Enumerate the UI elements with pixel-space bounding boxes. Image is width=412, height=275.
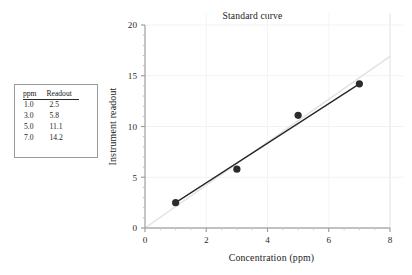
cell-readout: 2.5 bbox=[44, 99, 79, 110]
x-axis-tick-label: 2 bbox=[204, 235, 209, 245]
y-axis-tick-label: 5 bbox=[132, 173, 137, 183]
data-point-marker bbox=[356, 80, 363, 87]
chart-plot-region: Standard curve 0510152002468 Concentrati… bbox=[100, 6, 405, 271]
table-header-readout: Readout bbox=[44, 90, 79, 99]
axis-titles: Concentration (ppm)Instrument readout bbox=[107, 87, 314, 264]
gridlines bbox=[145, 13, 404, 228]
x-axis-tick-label: 6 bbox=[326, 235, 331, 245]
y-axis-tick-label: 20 bbox=[128, 20, 138, 30]
standards-data-table: ppm Readout 1.0 2.5 3.0 5.8 5.0 11.1 7.0… bbox=[23, 90, 79, 143]
chart-screenshot: { "table": { "headers": ["ppm", "Readout… bbox=[0, 0, 412, 275]
cell-ppm: 7.0 bbox=[23, 132, 44, 143]
table-row: 5.0 11.1 bbox=[23, 121, 79, 132]
table-body: 1.0 2.5 3.0 5.8 5.0 11.1 7.0 14.2 bbox=[23, 99, 79, 143]
y-axis-tick-label: 10 bbox=[128, 122, 138, 132]
cell-ppm: 3.0 bbox=[23, 110, 44, 121]
x-axis-tick-label: 0 bbox=[143, 235, 148, 245]
standards-data-table-box: ppm Readout 1.0 2.5 3.0 5.8 5.0 11.1 7.0… bbox=[14, 84, 98, 158]
table-header-row: ppm Readout bbox=[23, 90, 79, 99]
table-row: 3.0 5.8 bbox=[23, 110, 79, 121]
y-axis-tick-label: 15 bbox=[128, 71, 138, 81]
cell-readout: 14.2 bbox=[44, 132, 79, 143]
data-point-marker bbox=[233, 166, 240, 173]
x-axis-tick-label: 4 bbox=[265, 235, 270, 245]
table-header-row-group: ppm Readout bbox=[23, 90, 79, 99]
x-axis-title: Concentration (ppm) bbox=[229, 252, 315, 264]
data-point-marker bbox=[295, 112, 302, 119]
data-point-marker bbox=[172, 199, 179, 206]
cell-readout: 11.1 bbox=[44, 121, 79, 132]
table-row: 1.0 2.5 bbox=[23, 99, 79, 110]
y-axis-tick-label: 0 bbox=[132, 223, 137, 233]
x-axis-tick-label: 8 bbox=[388, 235, 393, 245]
table-row: 7.0 14.2 bbox=[23, 132, 79, 143]
standard-curve-chart: 0510152002468 Concentration (ppm)Instrum… bbox=[100, 6, 405, 271]
cell-readout: 5.8 bbox=[44, 110, 79, 121]
cell-ppm: 1.0 bbox=[23, 99, 44, 110]
table-header-ppm: ppm bbox=[23, 90, 44, 99]
y-axis-title: Instrument readout bbox=[107, 87, 118, 165]
cell-ppm: 5.0 bbox=[23, 121, 44, 132]
